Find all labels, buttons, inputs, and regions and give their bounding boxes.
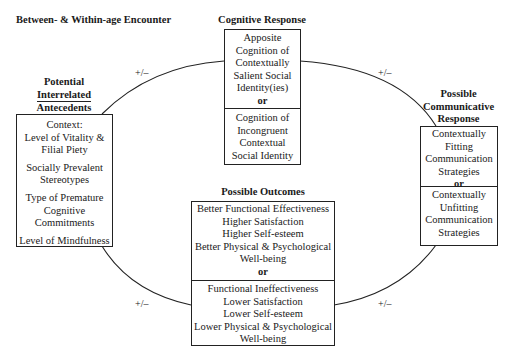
text-line: Contextual (225, 137, 300, 150)
text-line: Communication (421, 153, 497, 166)
antecedents-box: Context: Level of Vitality & Filial Piet… (16, 114, 113, 247)
text-line: Higher Self-esteem (192, 228, 334, 241)
text-line: Type of Premature (17, 192, 112, 205)
cognitive-option-b: Cognition of Incongruent Contextual Soci… (225, 108, 300, 162)
text-line: Lower Satisfaction (192, 296, 334, 309)
communicative-title: Possible Communicative Response (412, 88, 505, 126)
or-separator: or (225, 95, 300, 108)
text-line: Contextually (421, 189, 497, 202)
antecedent-mindfulness: Level of Mindfulness (17, 235, 112, 248)
antecedents-title: Potential Interrelated Antecedents (16, 76, 112, 115)
outcomes-title: Possible Outcomes (191, 186, 335, 199)
text-line: Stereotypes (17, 174, 112, 187)
text-line: Salient Social (225, 70, 300, 83)
text-line: Contextually (225, 57, 300, 70)
relation-label-top-left: +/– (135, 67, 148, 78)
antecedent-context: Context: Level of Vitality & Filial Piet… (17, 119, 112, 157)
text-line: Communication (421, 214, 497, 227)
communicative-title-line: Response (412, 113, 505, 126)
text-line: Cognition of (225, 112, 300, 125)
text-line: Level of Vitality & (17, 132, 112, 145)
text-line: Commitments (17, 217, 112, 230)
text-line: Socially Prevalent (17, 162, 112, 175)
communicative-title-line: Communicative (412, 101, 505, 114)
antecedents-title-line: Potential (16, 76, 112, 89)
text-line: Fitting (421, 141, 497, 154)
or-separator: or (192, 266, 334, 279)
text-line: Better Physical & Psychological (192, 241, 334, 254)
outcomes-option-a: Better Functional Effectiveness Higher S… (192, 202, 334, 280)
text-line: Functional Ineffectiveness (192, 283, 334, 296)
outcomes-box: Better Functional Effectiveness Higher S… (191, 201, 335, 346)
antecedent-commitments: Type of Premature Cognitive Commitments (17, 192, 112, 230)
text-line: Apposite (225, 32, 300, 45)
arc-antecedents-to-cognitive (102, 61, 224, 114)
text-line: Incongruent (225, 125, 300, 138)
text-line: Lower Self-esteem (192, 308, 334, 321)
relation-label-bottom-right: +/– (378, 298, 391, 309)
arc-communicative-to-outcomes (334, 245, 436, 305)
outcomes-option-b: Functional Ineffectiveness Lower Satisfa… (192, 280, 334, 346)
cognitive-box: Apposite Cognition of Contextually Salie… (224, 29, 301, 165)
cognitive-title: Cognitive Response (200, 14, 324, 27)
cognitive-option-a: Apposite Cognition of Contextually Salie… (225, 30, 300, 108)
text-line: Well-being (192, 333, 334, 346)
text-line: Cognition of (225, 45, 300, 58)
antecedent-stereotypes: Socially Prevalent Stereotypes (17, 162, 112, 187)
text-line: Higher Satisfaction (192, 216, 334, 229)
text-line: Identity(ies) (225, 82, 300, 95)
text-line: Unfitting (421, 202, 497, 215)
communicative-box: Contextually Fitting Communication Strat… (420, 126, 498, 246)
arc-outcomes-to-antecedents (102, 246, 191, 305)
text-line: Well-being (192, 253, 334, 266)
communicative-option-b: Contextually Unfitting Communication Str… (421, 186, 497, 239)
antecedents-title-line: Antecedents (16, 102, 112, 115)
antecedents-title-line: Interrelated (37, 89, 91, 103)
diagram-title: Between- & Within-age Encounter (16, 14, 171, 27)
text-line: Filial Piety (17, 144, 112, 157)
text-line: Lower Physical & Psychological (192, 321, 334, 334)
text-line: Context: (17, 119, 112, 132)
relation-label-top-right: +/– (378, 67, 391, 78)
communicative-option-a: Contextually Fitting Communication Strat… (421, 127, 497, 186)
text-line: Strategies (421, 227, 497, 240)
relation-label-bottom-left: +/– (135, 298, 148, 309)
text-line: Better Functional Effectiveness (192, 203, 334, 216)
text-line: Strategies (421, 166, 497, 179)
text-line: Social Identity (225, 150, 300, 163)
communicative-title-line: Possible (412, 88, 505, 101)
text-line: Contextually (421, 128, 497, 141)
text-line: Level of Mindfulness (17, 235, 112, 248)
text-line: Cognitive (17, 205, 112, 218)
